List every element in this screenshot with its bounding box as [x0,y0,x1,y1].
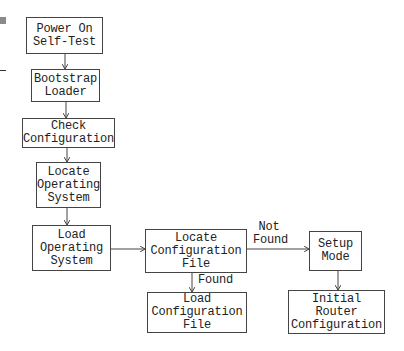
node-label-line: Power On [36,23,92,36]
node-bootstrap-loader: Bootstrap Loader [31,69,100,102]
edge-label-line: Found [253,234,285,247]
node-locate-configuration-file: Locate Configuration File [145,229,247,273]
node-power-on-self-test: Power On Self-Test [26,17,103,54]
edge-label-found: Found [198,274,233,287]
node-label-line: Operating [40,242,103,255]
node-label-line: Locate [175,232,217,245]
node-label-line: File [182,258,210,271]
node-label-line: Operating [37,179,100,192]
edge-line-artifact [0,70,6,71]
node-check-configuration: Check Configuration [22,118,115,148]
node-label-line: System [50,255,92,268]
node-label-line: Initial [312,293,361,306]
node-label-line: Configuration [23,133,114,146]
node-initial-router-configuration: Initial Router Configuration [288,290,385,334]
gray-square-artifact [0,17,6,24]
node-label-line: Router [315,306,357,319]
flowchart-canvas: Power On Self-Test Bootstrap Loader Chec… [0,0,404,351]
node-locate-operating-system: Locate Operating System [36,162,101,208]
node-label-line: System [47,192,89,205]
node-load-operating-system: Load Operating System [32,225,111,271]
node-label-line: Locate [47,166,89,179]
node-label-line: Load [57,229,85,242]
node-label-line: Loader [44,86,86,99]
node-label-line: Configuration [291,319,382,332]
node-label-line: Bootstrap [34,73,97,86]
node-load-configuration-file: Load Configuration File [147,292,247,333]
edge-label-not-found: Not Found [253,221,285,247]
node-label-line: Self-Test [33,36,96,49]
node-label-line: Configuration [150,245,241,258]
node-label-line: File [183,319,211,332]
node-setup-mode: Setup Mode [309,231,362,271]
node-label-line: Mode [321,251,349,264]
